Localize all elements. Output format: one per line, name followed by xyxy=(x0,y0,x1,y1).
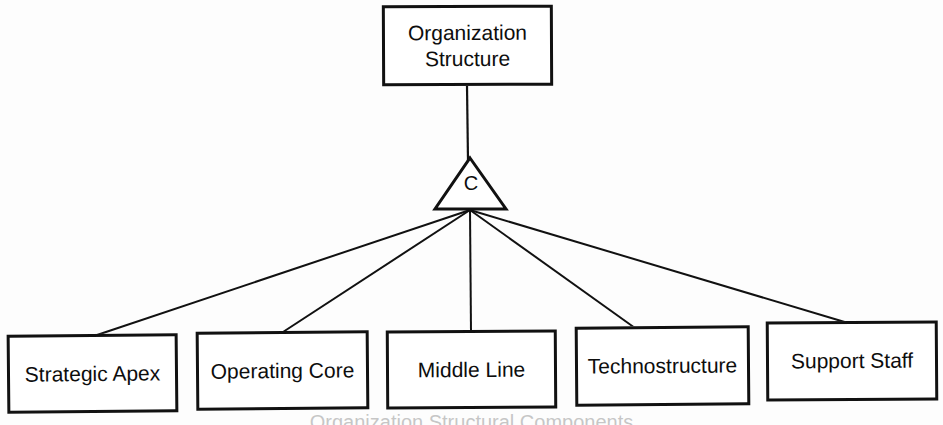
node-organization-structure[interactable]: Organization Structure xyxy=(382,5,553,87)
edge-hub-to-middle-line xyxy=(470,210,471,331)
node-support-staff[interactable]: Support Staff xyxy=(766,320,939,401)
node-organization-structure-label: Organization Structure xyxy=(402,20,533,72)
node-strategic-apex[interactable]: Strategic Apex xyxy=(7,333,179,414)
edge-root-to-hub xyxy=(467,86,468,161)
node-middle-line[interactable]: Middle Line xyxy=(386,329,557,409)
node-operating-core-label: Operating Core xyxy=(205,357,361,384)
node-middle-line-label: Middle Line xyxy=(412,356,532,382)
edge-hub-to-technostructure xyxy=(470,210,635,328)
node-technostructure-label: Technostructure xyxy=(582,353,744,380)
edge-hub-to-operating-core xyxy=(283,210,470,332)
hub-triangle-label: C xyxy=(430,172,512,195)
diagram-caption: Organization Structural Components xyxy=(0,411,943,425)
node-strategic-apex-label: Strategic Apex xyxy=(19,360,167,387)
edge-hub-to-support-staff xyxy=(470,210,848,323)
node-technostructure[interactable]: Technostructure xyxy=(575,325,751,406)
organization-structure-diagram: Organization Structure C Strategic Apex … xyxy=(0,0,943,425)
node-support-staff-label: Support Staff xyxy=(785,348,919,375)
node-operating-core[interactable]: Operating Core xyxy=(196,330,370,411)
edge-hub-to-strategic-apex xyxy=(97,210,470,335)
